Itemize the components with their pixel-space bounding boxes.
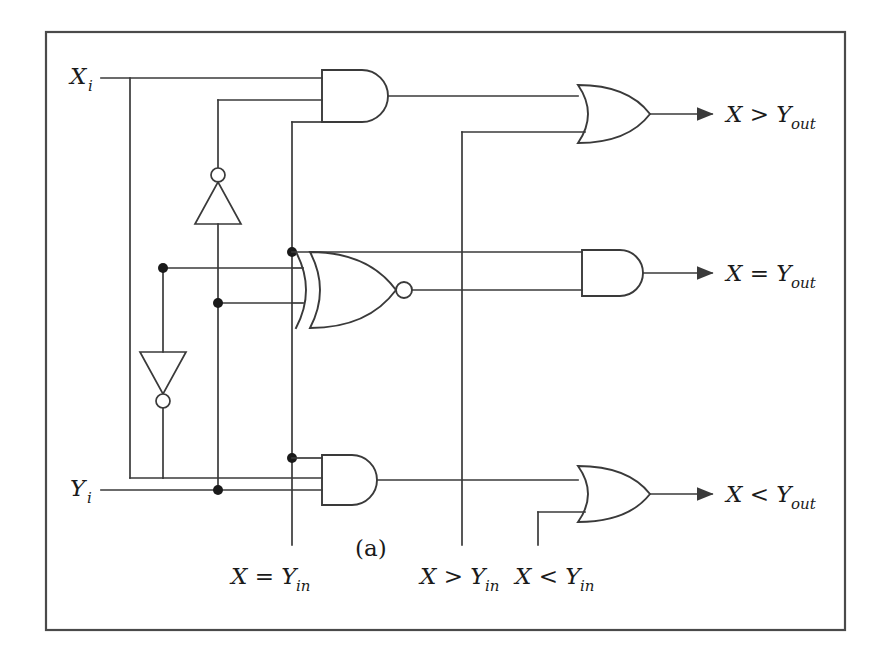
label-input-gt-sub: in bbox=[485, 577, 499, 595]
label-output-eq: X = Y bbox=[724, 260, 794, 286]
figure-caption: (a) bbox=[355, 535, 387, 561]
inverter-up-bubble bbox=[211, 168, 225, 182]
inverter-down-triangle bbox=[140, 352, 186, 394]
xnor-gate-extra-arc bbox=[296, 252, 306, 328]
label-input-y: Y bbox=[70, 475, 88, 501]
junction-dot-y-xnor bbox=[213, 298, 223, 308]
label-input-eq-sub: in bbox=[296, 577, 310, 595]
label-input-x-sub: i bbox=[88, 77, 93, 95]
or-gate-top bbox=[578, 85, 650, 143]
label-input-lt-sub: in bbox=[580, 577, 594, 595]
figure-page: X i Y i X > Y out X = Y out X < Y out X … bbox=[0, 0, 884, 664]
label-output-gt-sub: out bbox=[791, 115, 817, 133]
junction-dot-x-xnor bbox=[158, 263, 168, 273]
junction-dot-yi bbox=[213, 485, 223, 495]
label-output-eq-sub: out bbox=[791, 274, 817, 292]
label-input-x: X bbox=[68, 63, 88, 89]
xnor-gate-bubble bbox=[396, 282, 412, 298]
label-output-lt-sub: out bbox=[791, 495, 817, 513]
xnor-gate-body bbox=[310, 252, 396, 328]
and-gate-bottom bbox=[322, 455, 377, 505]
label-input-eq: X = Y bbox=[229, 563, 299, 589]
label-output-lt: X < Y bbox=[724, 481, 794, 507]
inverter-up-triangle bbox=[195, 182, 241, 224]
label-input-y-sub: i bbox=[87, 489, 92, 507]
logic-circuit-diagram: X i Y i X > Y out X = Y out X < Y out X … bbox=[0, 0, 884, 664]
label-input-gt: X > Y bbox=[418, 563, 488, 589]
inverter-down-bubble bbox=[156, 394, 170, 408]
and-gate-top bbox=[322, 70, 388, 122]
label-output-gt: X > Y bbox=[724, 101, 794, 127]
or-gate-bottom bbox=[578, 466, 650, 522]
and-gate-mid bbox=[582, 250, 643, 296]
label-input-lt: X < Y bbox=[513, 563, 583, 589]
